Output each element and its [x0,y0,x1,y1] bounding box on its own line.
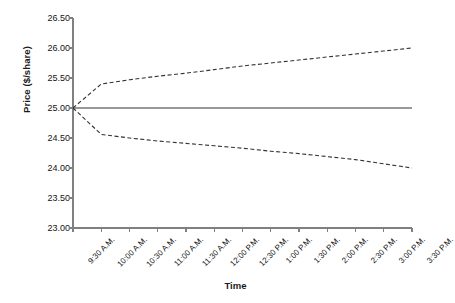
series-line [73,48,412,108]
axes [69,18,412,232]
series-line [73,108,412,168]
data-series [73,48,412,168]
x-axis-title: Time [0,280,423,291]
x-axis-tick-label: 3:30 P.M. [426,236,455,265]
